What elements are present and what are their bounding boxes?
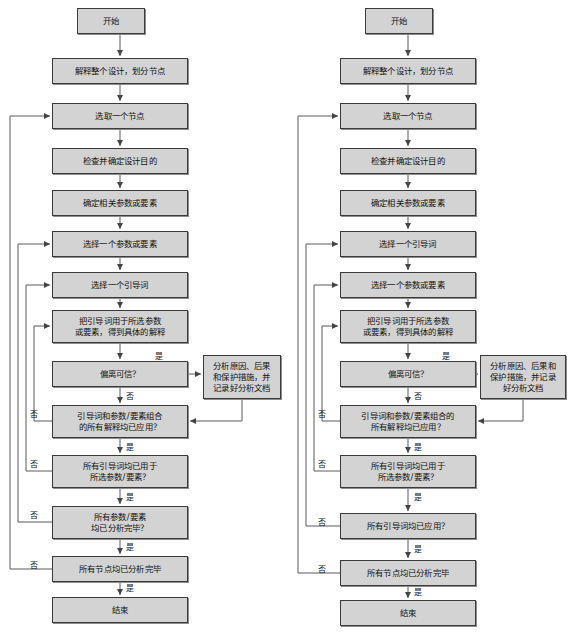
decision-all-guidewords-applied: 所有引导词均已应用？ xyxy=(340,513,476,539)
node-explain-design: 解释整个设计，划分节点 xyxy=(340,58,476,84)
decision-all-interpretations-applied: 引导词和参数/要素组合的所有解释均已应用？ xyxy=(52,405,188,438)
edge-label: 是 xyxy=(126,584,134,593)
node-apply-guideword: 把引导词用于所选参数或要素，得到具体的解释 xyxy=(340,310,476,343)
node-end: 结束 xyxy=(340,600,476,626)
node-select-node: 选取一个节点 xyxy=(52,103,188,129)
decision-deviation-credible: 偏离可信？ xyxy=(340,361,476,387)
edge-label: 否 xyxy=(126,392,134,401)
node-check-design-purpose: 检查并确定设计目的 xyxy=(340,148,476,174)
edge-label: 否 xyxy=(30,561,38,570)
node-select-guideword: 选择一个引导词 xyxy=(340,231,476,257)
node-analyze-causes: 分析原因、后果和保护措施，并记录好分析文档 xyxy=(203,355,281,399)
edge-label: 是 xyxy=(414,545,422,554)
decision-all-interpretations-applied: 引导词和参数/要素组合的所有解释均已应用？ xyxy=(340,405,476,438)
node-select-node: 选取一个节点 xyxy=(340,103,476,129)
edge-label: 是 xyxy=(414,493,422,502)
edge-label: 否 xyxy=(30,460,38,469)
decision-all-parameters-analyzed: 所有参数/要素均已分析完毕？ xyxy=(52,506,188,539)
edge-label: 否 xyxy=(318,410,326,419)
node-start: 开始 xyxy=(365,8,433,34)
edge-label: 是 xyxy=(414,588,422,597)
node-select-guideword: 选择一个引导词 xyxy=(52,272,188,298)
decision-all-nodes-analyzed: 所有节点均已分析完毕 xyxy=(340,560,476,586)
edge-label: 是 xyxy=(414,443,422,452)
decision-deviation-credible: 偏离可信？ xyxy=(52,361,188,387)
flowchart-left: 开始 解释整个设计，划分节点 选取一个节点 检查并确定设计目的 确定相关参数或要… xyxy=(0,0,290,638)
edge-label: 是 xyxy=(126,443,134,452)
node-end: 结束 xyxy=(52,597,188,623)
edge-label: 否 xyxy=(414,392,422,401)
node-apply-guideword: 把引导词用于所选参数或要素，得到具体的解释 xyxy=(52,310,188,343)
edge-label: 否 xyxy=(318,460,326,469)
decision-all-guidewords-used: 所有引导词均已用于所选参数/要素？ xyxy=(340,455,476,488)
flowchart-right: 开始 解释整个设计，划分节点 选取一个节点 检查并确定设计目的 确定相关参数或要… xyxy=(290,0,573,638)
edge-label: 是 xyxy=(155,352,163,361)
edge-label: 是 xyxy=(442,352,450,361)
edge-label: 否 xyxy=(318,518,326,527)
edge-label: 是 xyxy=(126,493,134,502)
node-check-design-purpose: 检查并确定设计目的 xyxy=(52,148,188,174)
node-explain-design: 解释整个设计，划分节点 xyxy=(52,58,188,84)
edge-label: 否 xyxy=(30,511,38,520)
node-start: 开始 xyxy=(77,8,145,34)
node-determine-parameters: 确定相关参数或要素 xyxy=(52,190,188,216)
decision-all-nodes-analyzed: 所有节点均已分析完毕 xyxy=(52,556,188,582)
decision-all-guidewords-used: 所有引导词均已用于所选参数/要素？ xyxy=(52,455,188,488)
node-analyze-causes: 分析原因、后果和保护措施，并记录好分析文档 xyxy=(480,355,566,399)
node-select-parameter: 选择一个参数或要素 xyxy=(340,272,476,298)
node-select-parameter: 选择一个参数或要素 xyxy=(52,231,188,257)
edge-label: 是 xyxy=(126,543,134,552)
edge-label: 否 xyxy=(318,565,326,574)
edge-label: 否 xyxy=(30,410,38,419)
node-determine-parameters: 确定相关参数或要素 xyxy=(340,190,476,216)
